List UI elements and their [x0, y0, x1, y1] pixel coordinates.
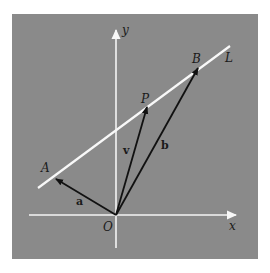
vector-v-label: v [122, 144, 130, 157]
diagram-panel [12, 14, 258, 259]
line-L-label: L [224, 51, 233, 65]
x-axis-label: x [229, 219, 236, 233]
vector-a-label: a [76, 195, 83, 208]
point-A-label: A [40, 161, 50, 175]
vector-line-diagram: y x O L A P B a v b [0, 0, 270, 273]
origin-label: O [103, 220, 113, 234]
point-P-label: P [140, 92, 150, 106]
point-B-label: B [191, 52, 201, 66]
vector-b-label: b [161, 139, 169, 152]
y-axis-label: y [121, 23, 129, 37]
